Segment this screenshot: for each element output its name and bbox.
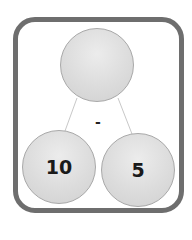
left-value: 10 bbox=[46, 156, 72, 178]
right-value: 5 bbox=[131, 159, 144, 181]
connector-left bbox=[65, 98, 77, 131]
connector-right bbox=[118, 98, 132, 134]
operation-sign: - bbox=[94, 115, 102, 129]
left-circle-part: 10 bbox=[22, 130, 96, 204]
right-circle-part: 5 bbox=[101, 133, 175, 207]
top-circle-whole[interactable] bbox=[60, 28, 134, 102]
